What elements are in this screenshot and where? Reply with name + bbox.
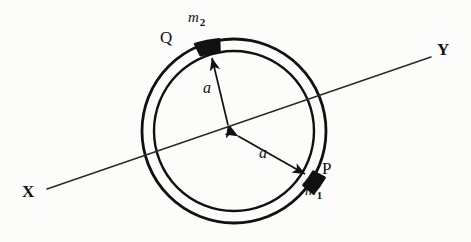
- ring-outer-circle: [142, 39, 326, 223]
- radius-arrow-lower: [238, 136, 305, 174]
- mass-label-m2-subscript: 2: [199, 16, 206, 28]
- radius-label-lower: a: [259, 145, 267, 161]
- mass-label-m1: m1: [305, 183, 322, 201]
- mass-label-m1-subscript: 1: [316, 189, 323, 201]
- mass-label-m1-symbol: m: [305, 182, 316, 198]
- radius-arrow-upper: [212, 58, 228, 125]
- mass-m2-block: [195, 39, 219, 55]
- ring-masses-figure: X Y Q P m2 m1 a a: [0, 0, 471, 242]
- point-label-q: Q: [160, 29, 172, 46]
- axis-label-y: Y: [437, 41, 449, 58]
- mass-label-m2: m2: [188, 10, 205, 28]
- point-label-p: P: [322, 160, 331, 177]
- axis-label-x: X: [22, 183, 34, 200]
- diagram-canvas: [0, 0, 471, 242]
- radius-label-upper: a: [203, 80, 211, 96]
- mass-label-m2-symbol: m: [188, 9, 199, 25]
- ring-inner-circle: [154, 51, 314, 211]
- axis-line-xy: [47, 57, 431, 189]
